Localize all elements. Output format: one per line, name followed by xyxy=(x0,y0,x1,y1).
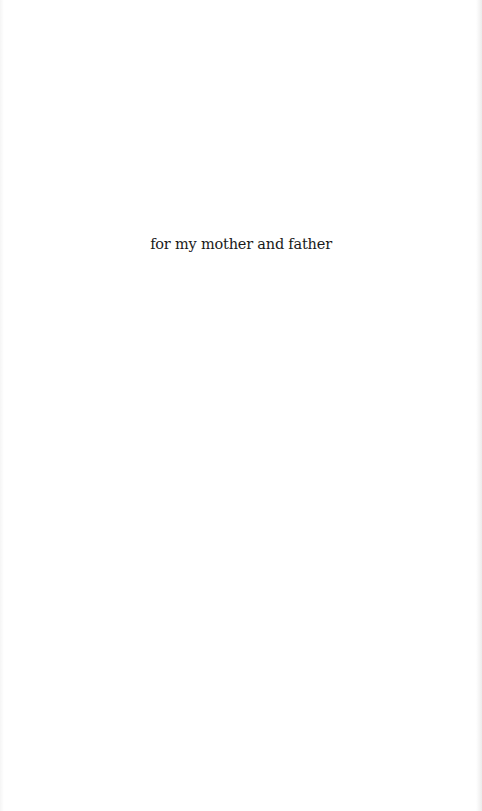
page-edge-shadow-right xyxy=(476,0,482,811)
book-page: for my mother and father xyxy=(0,0,482,811)
dedication-text: for my mother and father xyxy=(0,234,482,254)
page-edge-shadow-left xyxy=(0,0,4,811)
